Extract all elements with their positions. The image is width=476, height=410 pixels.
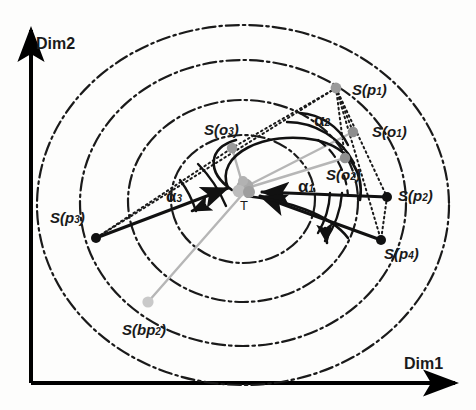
label-S-p1: S(p1) (352, 82, 387, 97)
label-alpha2-text: α (314, 111, 324, 130)
label-S-p4: S(p4) (384, 246, 419, 261)
vector-p3-to-T (96, 188, 228, 238)
alpha1-arc (318, 193, 330, 233)
label-S-o3-text: S(o (204, 121, 228, 138)
label-S-o2: S(o2) (326, 167, 361, 182)
dotted-p2-to-p4 (381, 197, 387, 240)
point-marker-bp2[interactable] (142, 296, 153, 307)
label-alpha1-sub: 1 (308, 183, 314, 194)
label-S-p4-text: S(p (384, 245, 408, 262)
dotted-construction-lines (96, 88, 387, 240)
label-S-p3-close: ) (80, 209, 85, 226)
label-S-p2: S(p2) (398, 188, 433, 203)
point-marker-p2[interactable] (382, 192, 392, 202)
point-marker-p1[interactable] (331, 83, 342, 94)
label-alpha2: α2 (314, 112, 330, 129)
vector-p4-to-T (260, 196, 381, 240)
label-S-p4-close: ) (414, 245, 419, 262)
label-S-bp2: S(bp2) (122, 322, 166, 337)
point-marker-o3[interactable] (227, 143, 237, 153)
point-marker-p3[interactable] (91, 233, 101, 243)
dotted-p1-to-p3 (96, 88, 336, 238)
label-alpha3-sub: 3 (176, 193, 182, 204)
label-alpha3-text: α (166, 187, 176, 206)
label-alpha2-sub: 2 (324, 117, 330, 128)
dotted-p1-to-p4 (336, 88, 381, 240)
alpha3-arc-outer (198, 164, 226, 206)
label-S-o1: S(o1) (372, 124, 407, 139)
label-S-p2-text: S(p (398, 187, 422, 204)
sector-lower-curve (246, 196, 348, 238)
label-alpha1: α1 (298, 178, 314, 195)
label-alpha3: α3 (166, 188, 182, 205)
similarity-space-figure: Dim2 Dim1 S(p1) S(o1) S(o2) S(o3) S(p2) … (0, 0, 476, 410)
y-axis-label: Dim2 (36, 36, 75, 52)
label-S-o2-close: ) (356, 166, 361, 183)
point-marker-o1[interactable] (348, 127, 358, 137)
point-marker-T[interactable] (233, 176, 256, 198)
label-S-o3: S(o3) (204, 122, 239, 137)
diagram-canvas (0, 0, 476, 410)
point-marker-o2[interactable] (340, 153, 350, 163)
label-S-p3: S(p3) (50, 210, 85, 225)
point-marker-p4[interactable] (376, 235, 386, 245)
label-S-bp2-text: S(bp (122, 321, 155, 338)
label-S-p2-close: ) (428, 187, 433, 204)
label-alpha1-text: α (298, 177, 308, 196)
label-S-bp2-close: ) (161, 321, 166, 338)
label-S-p1-text: S(p (352, 81, 376, 98)
label-T: T (240, 199, 248, 212)
label-S-o1-close: ) (402, 123, 407, 140)
label-S-o3-close: ) (234, 121, 239, 138)
label-S-p1-close: ) (382, 81, 387, 98)
label-S-o1-text: S(o (372, 123, 396, 140)
alpha1-arc-outer (325, 193, 342, 241)
label-S-o2-text: S(o (326, 166, 350, 183)
label-S-p3-text: S(p (50, 209, 74, 226)
x-axis-label: Dim1 (404, 356, 443, 372)
